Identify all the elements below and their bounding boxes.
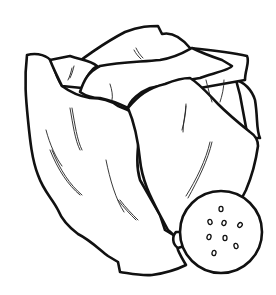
lettuce-illustration: [0, 0, 276, 295]
lettuce-slice: [180, 191, 262, 273]
coloring-page: Lettuce head with a cut slice: [0, 0, 276, 295]
